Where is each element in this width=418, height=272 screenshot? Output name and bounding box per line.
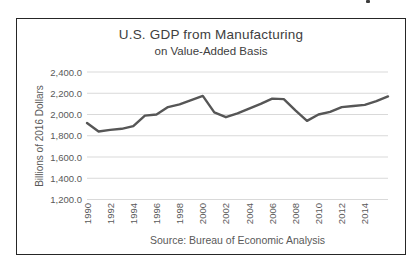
source-note: Source: Bureau of Economic Analysis	[87, 234, 388, 246]
y-tick-label: 2,400.0	[50, 67, 82, 78]
x-tick-label: 1996	[151, 203, 162, 224]
x-tick-label: 2012	[336, 203, 347, 224]
y-tick-label: 2,000.0	[50, 109, 82, 120]
y-tick-label: 2,200.0	[50, 88, 82, 99]
x-tick-label: 1990	[82, 203, 93, 224]
chart-subtitle: on Value-Added Basis	[17, 45, 405, 57]
chart-frame: 2,400.02,200.02,000.01,800.01,600.01,400…	[16, 18, 406, 255]
cropped-text-artifact	[366, 0, 370, 3]
x-tick-label: 2008	[290, 203, 301, 224]
y-axis-title: Billions of 2016 Dollars	[34, 85, 45, 187]
y-tick-label: 1,400.0	[50, 173, 82, 184]
x-tick-label: 2004	[244, 203, 255, 224]
x-tick-label: 1992	[105, 203, 116, 224]
x-tick-label: 2000	[197, 203, 208, 224]
x-tick-label: 1994	[128, 203, 139, 224]
data-line-manufacturing-gdp	[87, 96, 388, 132]
y-tick-label: 1,600.0	[50, 152, 82, 163]
y-tick-label: 1,200.0	[50, 194, 82, 205]
chart-title: U.S. GDP from Manufacturing	[17, 27, 405, 42]
page-background: { "chart_data": { "type": "line", "title…	[0, 0, 418, 272]
x-tick-label: 1998	[174, 203, 185, 224]
x-tick-label: 2010	[313, 203, 324, 224]
x-tick-label: 2002	[220, 203, 231, 224]
x-tick-label: 2014	[359, 203, 370, 224]
x-tick-label: 2006	[267, 203, 278, 224]
y-tick-label: 1,800.0	[50, 130, 82, 141]
